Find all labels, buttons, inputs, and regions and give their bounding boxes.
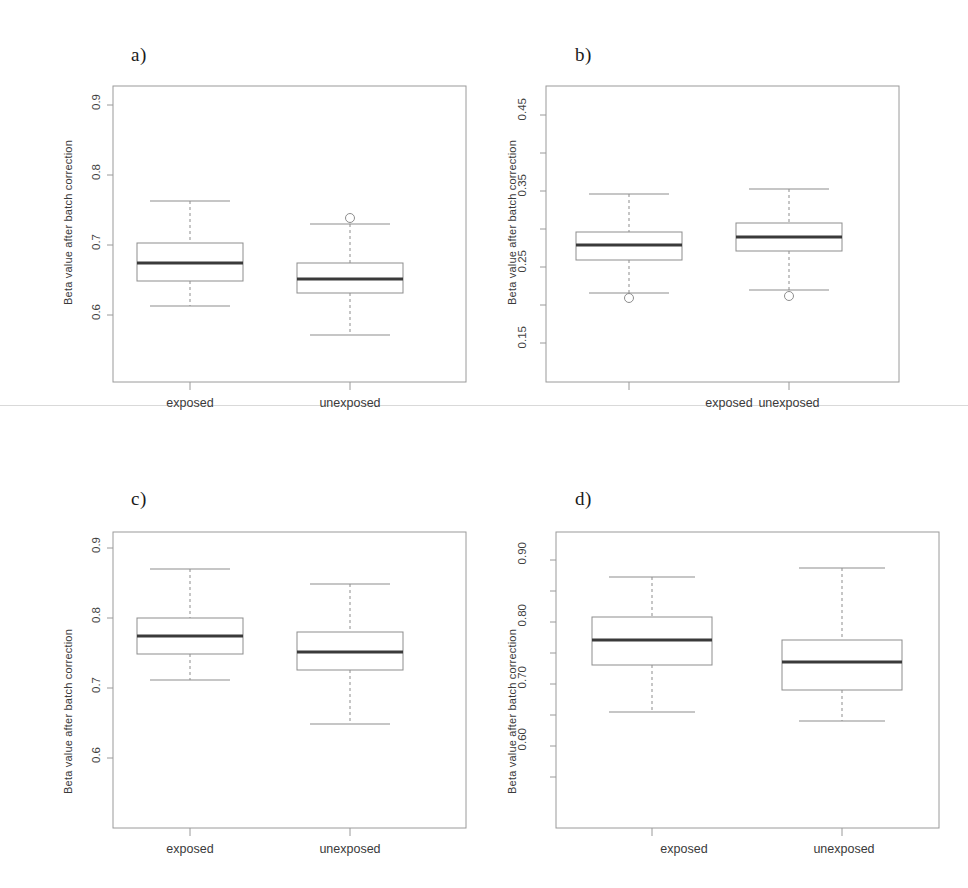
panel-a-box-unexposed [297, 214, 403, 336]
panel-c-box-unexposed [297, 584, 403, 724]
panel-b-box-unexposed [736, 189, 842, 301]
panel-b: b) Beta value after batch correction 0.4… [484, 0, 968, 444]
panel-b-plot [484, 0, 968, 444]
outlier-point [346, 214, 355, 223]
panel-d: d) Beta value after batch correction 0.9… [484, 444, 968, 888]
panel-d-box-unexposed [782, 568, 902, 721]
panel-a-box-exposed [137, 201, 243, 306]
boxplot-figure: a) Beta value after batch correction 0.9… [0, 0, 968, 888]
panel-d-plot [484, 444, 968, 888]
panel-a-plot [0, 0, 484, 444]
panel-b-box-exposed [576, 194, 682, 303]
panel-c: c) Beta value after batch correction 0.9… [0, 444, 484, 888]
panel-d-box-exposed [592, 577, 712, 712]
panel-a: a) Beta value after batch correction 0.9… [0, 0, 484, 444]
outlier-point [785, 292, 794, 301]
outlier-point [625, 294, 634, 303]
panel-c-box-exposed [137, 569, 243, 680]
panel-c-plot [0, 444, 484, 888]
